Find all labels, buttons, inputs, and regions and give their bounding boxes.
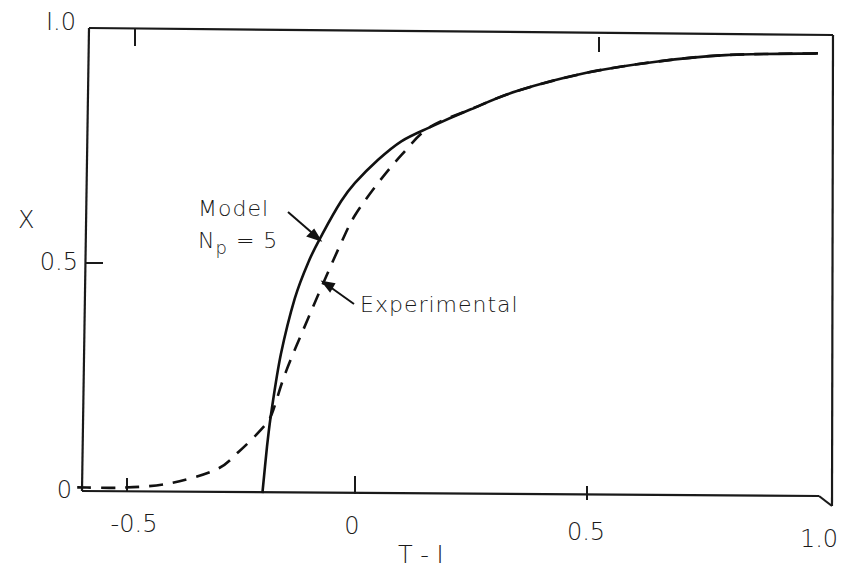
- model-value: = 5: [228, 228, 278, 253]
- plot-frame: [82, 28, 833, 506]
- y-axis-label: X: [18, 208, 34, 232]
- model-annotation-line2: Np = 5: [198, 230, 278, 252]
- model-n: N: [198, 228, 215, 253]
- model-annotation-line1: Model: [198, 198, 269, 220]
- x-axis: [82, 491, 819, 496]
- experimental-annotation: Experimental: [360, 294, 519, 316]
- ticks: [86, 29, 599, 500]
- model-curve: [262, 53, 818, 493]
- x-axis-label: T - I: [398, 543, 444, 567]
- bottom-right-border: [819, 496, 832, 506]
- x-tick-label--0.5: -0.5: [94, 512, 174, 536]
- model-subscript: p: [215, 237, 227, 258]
- y-axis: [82, 28, 89, 491]
- right-border: [832, 35, 833, 506]
- top-border: [89, 28, 833, 35]
- x-tick-label-0.5: 0.5: [546, 520, 626, 544]
- chart-canvas: [0, 0, 858, 574]
- x-tick-label-1.0: 1.0: [779, 527, 858, 551]
- y-tick-label-0.5: 0.5: [18, 250, 78, 274]
- y-tick-label-0: 0: [12, 478, 72, 502]
- y-tick-label-1.0: I.0: [16, 10, 76, 34]
- x-tick-label-0: 0: [312, 514, 392, 538]
